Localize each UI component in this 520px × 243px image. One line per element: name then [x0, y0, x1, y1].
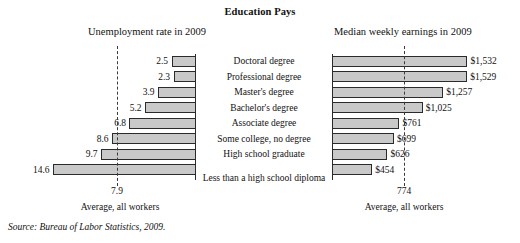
bar-row: $1,025 [332, 101, 520, 117]
median-weekly-earnings-plot: $1,532 $1,529 $1,257 $1,025 $761 $699 $6… [332, 54, 520, 180]
left-average-reference-line [117, 46, 118, 186]
category-label-less-than-high-school: Less than a high school diploma [196, 163, 332, 194]
bar-row: $626 [332, 147, 520, 163]
bar-row: $699 [332, 132, 520, 148]
bar-value-label: 6.8 [86, 116, 126, 130]
bar-row: $1,257 [332, 85, 520, 101]
chart-title: Education Pays [0, 6, 520, 17]
category-label-bachelors: Bachelor's degree [196, 101, 332, 117]
bar-value-label: 14.6 [6, 163, 50, 177]
bar-row: $1,532 [332, 54, 520, 70]
category-label-masters: Master's degree [196, 85, 332, 101]
bar-unemployment-less-than-high-school [53, 164, 196, 175]
bar-value-label: $1,025 [426, 101, 474, 115]
bar-earnings-masters [332, 87, 443, 98]
education-pays-figure: Education Pays Unemployment rate in 2009… [0, 0, 520, 243]
bar-row: 5.2 [0, 101, 196, 117]
bar-row: $761 [332, 116, 520, 132]
right-axis-spine [332, 54, 333, 180]
bar-value-label: $626 [391, 147, 435, 161]
bar-earnings-professional [332, 71, 467, 82]
bar-unemployment-associate [129, 118, 196, 129]
right-average-value: 774 [384, 186, 424, 196]
bar-earnings-high-school [332, 149, 387, 160]
bar-row: 2.5 [0, 54, 196, 70]
bar-earnings-doctoral [332, 56, 467, 67]
bar-row: 2.3 [0, 70, 196, 86]
left-panel-heading: Unemployment rate in 2009 [88, 26, 206, 37]
left-average-value: 7.9 [97, 186, 137, 196]
category-label-doctoral: Doctoral degree [196, 54, 332, 70]
bar-value-label: 8.6 [69, 132, 109, 146]
right-average-reference-line [404, 46, 405, 186]
bar-row: $454 [332, 163, 520, 194]
bar-row: $1,529 [332, 70, 520, 86]
bar-value-label: 2.5 [128, 54, 168, 68]
bar-earnings-bachelors [332, 102, 423, 113]
bar-unemployment-some-college [112, 133, 196, 144]
bar-unemployment-professional [174, 71, 197, 82]
category-label-professional: Professional degree [196, 70, 332, 86]
category-label-associate: Associate degree [196, 116, 332, 132]
bar-earnings-less-than-high-school [332, 164, 372, 175]
category-label-column: Doctoral degree Professional degree Mast… [196, 54, 332, 194]
bar-value-label: 3.9 [115, 85, 155, 99]
unemployment-rate-plot: 2.5 2.3 3.9 5.2 6.8 8.6 9.7 14.6 [0, 54, 196, 180]
bar-value-label: $1,532 [471, 54, 519, 68]
bar-row: 3.9 [0, 85, 196, 101]
bar-unemployment-masters [158, 87, 196, 98]
bar-unemployment-doctoral [172, 56, 197, 67]
bar-row: 6.8 [0, 116, 196, 132]
left-average-caption: Average, all workers [60, 202, 180, 212]
bar-unemployment-bachelors [145, 102, 196, 113]
bar-value-label: $1,257 [446, 85, 494, 99]
right-average-caption: Average, all workers [344, 202, 464, 212]
category-label-some-college: Some college, no degree [196, 132, 332, 148]
bar-value-label: $1,529 [470, 70, 518, 84]
bar-unemployment-high-school [101, 149, 196, 160]
bar-row: 9.7 [0, 147, 196, 163]
source-note: Source: Bureau of Labor Statistics, 2009… [8, 222, 165, 232]
bar-value-label: 9.7 [58, 147, 98, 161]
bar-value-label: 2.3 [130, 70, 170, 84]
bar-value-label: $761 [402, 116, 446, 130]
right-panel-heading: Median weekly earnings in 2009 [334, 26, 472, 37]
bar-row: 8.6 [0, 132, 196, 148]
category-label-high-school: High school graduate [196, 147, 332, 163]
bar-value-label: 5.2 [102, 101, 142, 115]
bar-earnings-associate [332, 118, 399, 129]
bar-earnings-some-college [332, 133, 394, 144]
bar-value-label: $454 [375, 163, 419, 177]
